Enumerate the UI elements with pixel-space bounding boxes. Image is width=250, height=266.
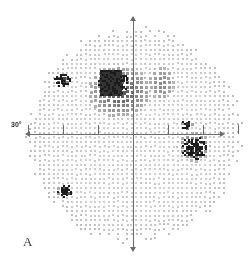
axis-arrow-up-icon <box>130 16 136 21</box>
axis-tick-0 <box>28 125 29 134</box>
axis-tick-3 <box>168 125 169 134</box>
panel-label: A <box>23 234 32 250</box>
visual-field-plot-area <box>0 0 250 266</box>
axis-tick-2 <box>98 125 99 134</box>
visual-field-figure: 30° A <box>0 0 250 266</box>
axis-arrow-right-icon <box>220 131 225 137</box>
horizontal-meridian-axis <box>29 134 221 135</box>
axis-tick-4 <box>203 125 204 134</box>
grayscale-dot-field <box>0 0 250 266</box>
degree-label: 30° <box>11 121 22 128</box>
axis-tick-1 <box>63 125 64 134</box>
axis-arrow-down-icon <box>130 247 136 252</box>
axis-tick-5 <box>238 125 239 134</box>
vertical-meridian-axis <box>133 20 134 248</box>
